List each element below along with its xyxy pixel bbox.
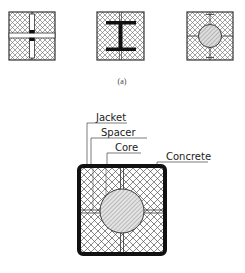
caption: (a) (118, 77, 127, 86)
detail-section (79, 166, 165, 254)
figure-canvas: (a) Jacket Spacer Core Concrete (0, 0, 245, 273)
circle-core-section (187, 12, 233, 60)
i-beam-core-section (97, 12, 144, 60)
label-spacer: Spacer (101, 127, 136, 138)
label-core: Core (115, 142, 138, 153)
cross-core-section (9, 12, 55, 60)
label-concrete: Concrete (166, 151, 211, 162)
label-jacket: Jacket (95, 112, 126, 123)
